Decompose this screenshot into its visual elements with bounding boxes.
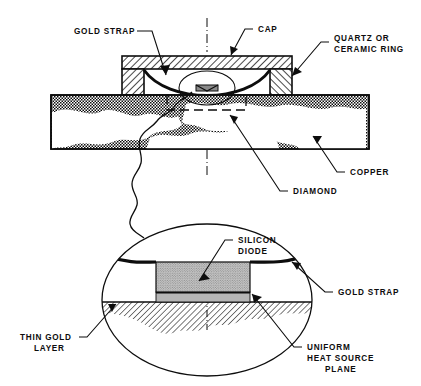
- quartz-ring-left: [122, 69, 144, 95]
- quartz-ring-right: [270, 69, 292, 95]
- label-thin-gold-layer-line2: LAYER: [34, 344, 65, 353]
- label-copper: COPPER: [350, 168, 389, 177]
- arrowhead-gold-strap-top: [160, 65, 170, 75]
- label-uniform-heat-line3: PLANE: [325, 365, 357, 374]
- gold-strap-curve: [144, 70, 270, 96]
- arrowhead-quartz-ring: [292, 67, 302, 76]
- label-diamond: DIAMOND: [293, 187, 337, 196]
- label-gold-strap-top: GOLD STRAP: [74, 27, 135, 36]
- cap: [122, 56, 292, 69]
- label-gold-strap-detail: GOLD STRAP: [338, 288, 399, 297]
- cross-section-figure: GOLD STRAP CAP QUARTZ OR CERAMIC RING CO…: [0, 0, 421, 386]
- detail-enlargement-ellipse: [100, 222, 314, 378]
- copper-block: [51, 95, 369, 150]
- technical-diagram-root: GOLD STRAP CAP QUARTZ OR CERAMIC RING CO…: [0, 0, 421, 386]
- label-quartz-ring-line1: QUARTZ OR: [334, 34, 389, 43]
- label-uniform-heat-line2: HEAT SOURCE: [307, 354, 374, 363]
- label-quartz-ring-line2: CERAMIC RING: [334, 45, 404, 54]
- label-silicon-diode-line1: SILICON: [238, 236, 276, 245]
- label-thin-gold-layer-line1: THIN GOLD: [20, 333, 72, 342]
- label-cap: CAP: [258, 25, 278, 34]
- arrowhead-cap: [230, 46, 238, 55]
- label-uniform-heat-line1: UNIFORM: [307, 343, 350, 352]
- label-silicon-diode-line2: DIODE: [238, 247, 268, 256]
